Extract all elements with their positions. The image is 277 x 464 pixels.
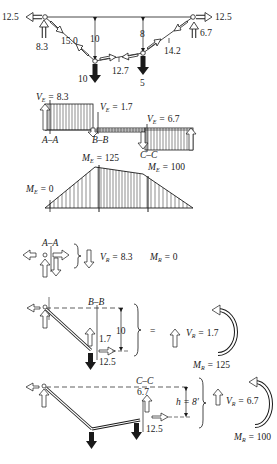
section-bb-label: B–B — [88, 297, 105, 307]
load-node-2 — [141, 51, 146, 56]
cable-analysis-figure: 12.5 12.5 8.3 6.7 15.0 12.7 14.2 10 8 10… — [0, 0, 277, 464]
right-horizontal-label: 12.5 — [215, 12, 232, 22]
tension-label-1: 15.0 — [61, 36, 78, 46]
right-vertical-reaction-arrow-icon — [190, 22, 199, 38]
section-bb-vertical-force: 1.7 — [99, 334, 111, 344]
section-aa-shear: VR = 8.3 — [100, 252, 133, 263]
section-cc-vertical-force: 6.7 — [137, 387, 149, 397]
section-cc-height-label: h = 8′ — [176, 397, 200, 407]
left-vertical-reaction-arrow-icon — [40, 20, 49, 38]
section-bb-freebody: B–B 10 1.7 12.5 = VR = 1.7 MR = 125 — [27, 297, 236, 371]
shear-label-2: VE = 1.7 — [100, 102, 133, 113]
right-support-node — [191, 15, 196, 20]
moment-arc-icon — [218, 310, 236, 354]
section-aa-moment: MR = 0 — [149, 252, 178, 263]
moment-label-left: ME = 0 — [25, 184, 54, 195]
section-bb-moment: MR = 125 — [192, 360, 230, 371]
right-vertical-label: 6.7 — [200, 28, 212, 38]
tension-label-2: 12.7 — [112, 66, 129, 76]
section-aa-freebody: A–A VR = 8.3 MR = 0 — [23, 238, 178, 277]
right-horizontal-reaction-arrow-icon — [196, 13, 212, 22]
tension-label-3: 14.2 — [164, 46, 181, 56]
moment-label-peak: ME = 125 — [81, 153, 119, 164]
section-label-aa: A–A — [41, 135, 59, 145]
brace — [74, 244, 81, 268]
section-label-cc: C–C — [140, 150, 158, 160]
left-support-node — [43, 15, 48, 20]
section-cc-horizontal-force: 12.5 — [146, 424, 163, 434]
shear-label-3: VE = 6.7 — [147, 114, 180, 125]
section-cc-freebody: C–C 6.7 12.5 h = 8′ VR = 6.7 — [26, 376, 271, 449]
section-label-bb: B–B — [92, 135, 109, 145]
moment-diagram: ME = 0 ME = 125 ME = 100 — [25, 153, 193, 212]
section-cc-shear: VR = 6.7 — [226, 396, 259, 407]
hollow-arrow-icon — [23, 250, 94, 277]
load-label-1: 10 — [78, 74, 88, 84]
shear-diagram: VE = 8.3 VE = 1.7 VE = 6.7 A–A B–B C–C — [36, 92, 196, 160]
section-bb-dim: 10 — [116, 326, 126, 336]
moment-label-right: ME = 100 — [147, 162, 185, 173]
load-node-1 — [93, 59, 98, 64]
load-label-2: 5 — [140, 78, 145, 88]
sag-label-2: 8 — [140, 29, 145, 39]
left-horizontal-reaction-arrow-icon — [26, 13, 42, 22]
cable-diagram: 12.5 12.5 8.3 6.7 15.0 12.7 14.2 10 8 10… — [2, 12, 232, 88]
left-horizontal-label: 12.5 — [2, 12, 19, 22]
equals-sign: = — [150, 326, 155, 336]
section-bb-shear: VR = 1.7 — [186, 328, 219, 339]
left-vertical-label: 8.3 — [36, 42, 48, 52]
section-bb-horizontal-force: 12.5 — [99, 357, 116, 367]
shear-label-1: VE = 8.3 — [36, 92, 69, 103]
section-cc-moment: MR = 100 — [233, 432, 271, 443]
sag-label-1: 10 — [90, 34, 100, 44]
brace — [134, 304, 141, 356]
section-cc-label: C–C — [136, 376, 154, 386]
section-aa-label: A–A — [41, 238, 59, 248]
brace — [199, 378, 206, 428]
